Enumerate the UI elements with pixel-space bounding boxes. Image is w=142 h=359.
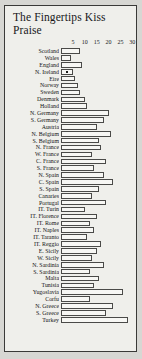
bar-row	[61, 269, 137, 276]
bar-row	[61, 248, 137, 255]
bar	[61, 103, 87, 109]
bar-row	[61, 241, 137, 248]
bar	[61, 131, 111, 137]
bar	[61, 227, 94, 233]
bar	[61, 317, 128, 323]
bar	[61, 138, 99, 144]
bar-row	[61, 138, 137, 145]
bar-row	[61, 96, 137, 103]
bar-rows	[61, 48, 137, 324]
bar	[61, 262, 104, 268]
bar-row	[61, 89, 137, 96]
category-label: IT. Florence	[9, 213, 59, 220]
category-label: N. France	[9, 144, 59, 151]
bar	[61, 124, 97, 130]
category-label: IT. Taranto	[9, 234, 59, 241]
bar	[61, 303, 113, 309]
bar	[61, 152, 92, 158]
bar-row	[61, 48, 137, 55]
bar	[61, 283, 94, 289]
bar-row	[61, 213, 137, 220]
bar	[61, 289, 123, 295]
chart-frame: The Fingertips Kiss Praise 51015202530 S…	[4, 5, 137, 352]
page-title: The Fingertips Kiss Praise	[13, 11, 133, 36]
x-axis-tick-label: 25	[117, 39, 123, 45]
bar-row	[61, 172, 137, 179]
category-label: E. Sicily	[9, 248, 59, 255]
bar-row	[61, 131, 137, 138]
category-label: Sweden	[9, 89, 59, 96]
bar-row	[61, 76, 137, 83]
category-label: Norway	[9, 82, 59, 89]
bar	[61, 296, 90, 302]
x-axis-tick-label: 15	[94, 39, 100, 45]
bar-row	[61, 179, 137, 186]
bar-row	[61, 275, 137, 282]
category-label: IT. Reggio	[9, 241, 59, 248]
category-label: Malta	[9, 275, 59, 282]
bar	[61, 179, 113, 185]
category-label: England	[9, 62, 59, 69]
bar	[61, 255, 92, 261]
category-label: Yugoslavia	[9, 289, 59, 296]
chart-page: The Fingertips Kiss Praise 51015202530 S…	[0, 0, 142, 359]
bar-row	[61, 186, 137, 193]
bar	[61, 110, 109, 116]
bar-row	[61, 165, 137, 172]
x-axis: 51015202530	[61, 39, 137, 48]
bar	[61, 207, 85, 213]
category-labels: ScotlandWalesEnglandN. IrelandEireNorway…	[9, 48, 59, 324]
bar	[61, 48, 80, 54]
category-label: W. France	[9, 151, 59, 158]
bar	[61, 159, 106, 165]
category-label: Portugal	[9, 200, 59, 207]
category-label: Turkey	[9, 317, 59, 324]
title-line-1: The Fingertips Kiss	[13, 11, 133, 24]
category-label: C. Spain	[9, 179, 59, 186]
plot-area: 51015202530	[61, 48, 137, 353]
title-line-2: Praise	[13, 24, 133, 37]
category-label: Tunisia	[9, 282, 59, 289]
category-label: S. Germany	[9, 117, 59, 124]
bar-row	[61, 234, 137, 241]
bar	[61, 97, 85, 103]
bar-row	[61, 206, 137, 213]
bar-row	[61, 103, 137, 110]
bar	[61, 310, 106, 316]
bar	[61, 248, 97, 254]
bar	[61, 76, 75, 82]
category-label: S. Spain	[9, 186, 59, 193]
bar	[61, 145, 101, 151]
bar-row	[61, 82, 137, 89]
bar-row	[61, 62, 137, 69]
bar	[61, 214, 97, 220]
bar	[61, 117, 104, 123]
bar-row	[61, 282, 137, 289]
bar	[61, 234, 87, 240]
category-label: Austria	[9, 124, 59, 131]
category-label: Denmark	[9, 96, 59, 103]
bar	[61, 193, 92, 199]
bar	[61, 83, 78, 89]
bar-row	[61, 158, 137, 165]
x-axis-tick-label: 20	[106, 39, 112, 45]
category-label: Eire	[9, 76, 59, 83]
bar-row	[61, 124, 137, 131]
bar	[61, 276, 99, 282]
bar-row	[61, 200, 137, 207]
category-label: N. Sardinia	[9, 262, 59, 269]
category-label: Canaries	[9, 193, 59, 200]
bar-row	[61, 303, 137, 310]
bar-row	[61, 255, 137, 262]
category-label: IT. Naples	[9, 227, 59, 234]
bar	[61, 186, 99, 192]
bar-row	[61, 193, 137, 200]
category-label: C. France	[9, 158, 59, 165]
bar-row	[61, 296, 137, 303]
category-label: Scotland	[9, 48, 59, 55]
category-label: Holland	[9, 103, 59, 110]
category-label: W. Sicily	[9, 255, 59, 262]
bar-row	[61, 310, 137, 317]
bar-row	[61, 151, 137, 158]
bar	[61, 165, 94, 171]
